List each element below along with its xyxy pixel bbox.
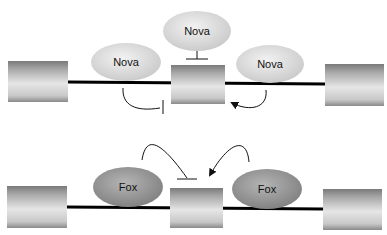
- fox-factor-left: Fox: [93, 167, 163, 207]
- alternative-exon: [171, 65, 225, 104]
- nova-factor-left: Nova: [91, 43, 161, 81]
- upstream-exon: [8, 61, 68, 102]
- nova-label: Nova: [184, 25, 211, 37]
- nova-factor-top: Nova: [163, 11, 231, 51]
- inhibition-symbol: [186, 51, 208, 59]
- upstream-exon: [7, 186, 67, 228]
- nova-factor-right: Nova: [236, 45, 304, 83]
- activation-arrow-right: [210, 146, 249, 175]
- nova-label: Nova: [257, 58, 284, 70]
- fox-label: Fox: [258, 183, 277, 195]
- downstream-exon: [323, 189, 382, 230]
- fox-factor-right: Fox: [232, 169, 302, 209]
- splicing-regulation-diagram: Nova Nova Nova Fox: [0, 0, 387, 235]
- inhibition-arrow-left: [123, 88, 163, 114]
- activation-arrow-right: [232, 90, 266, 108]
- top-panel-nova: Nova Nova Nova: [8, 11, 384, 114]
- downstream-exon: [325, 64, 384, 106]
- fox-label: Fox: [119, 181, 138, 193]
- bottom-panel-fox: Fox Fox: [7, 145, 382, 230]
- nova-label: Nova: [113, 56, 140, 68]
- alternative-exon: [170, 188, 223, 228]
